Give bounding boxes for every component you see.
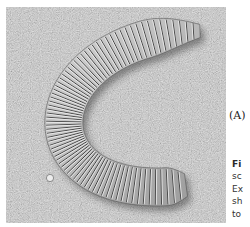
caption-line: Fi — [232, 158, 250, 170]
figure-caption-fragment: Fi sc Ex sh to — [232, 158, 250, 220]
caption-line: to — [232, 208, 250, 220]
panel-label: (A) — [229, 109, 246, 122]
caption-line: sc — [232, 170, 250, 182]
caption-line: sh — [232, 195, 250, 207]
micrograph-photo — [6, 7, 226, 223]
caption-line: Ex — [232, 183, 250, 195]
bead-particle — [46, 174, 53, 181]
